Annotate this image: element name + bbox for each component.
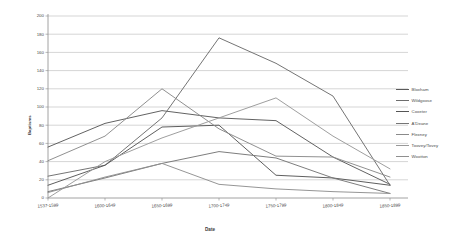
y-axis-tick-label: 180 (18, 32, 44, 37)
legend-color-swatch (396, 134, 409, 135)
legend-item[interactable]: A'Deane (396, 118, 474, 129)
series-line-bloxham (48, 111, 390, 185)
chart-legend: BloxhamWildgooseCoxeterA'DeaneFlexneyToo… (396, 84, 474, 162)
legend-item[interactable]: Wootton (396, 151, 474, 162)
legend-label: Flexney (412, 132, 427, 137)
legend-color-swatch (396, 111, 409, 112)
y-axis-tick-label: 80 (18, 123, 44, 128)
legend-item[interactable]: Toovey/Tovey (396, 140, 474, 151)
y-axis-tick-label: 20 (18, 177, 44, 182)
series-line-flexney (48, 89, 390, 177)
series-line-wildgoose (48, 38, 390, 185)
y-axis-tick-label: 0 (18, 195, 44, 200)
y-axis-tick-label: 160 (18, 50, 44, 55)
y-axis-tick-label: 100 (18, 104, 44, 109)
legend-label: Coxeter (412, 109, 427, 114)
y-axis-tick-label: 60 (18, 141, 44, 146)
y-axis-tick-label: 200 (18, 13, 44, 18)
y-axis-tick-label: 140 (18, 68, 44, 73)
legend-color-swatch (396, 100, 409, 101)
y-axis-tick-label: 120 (18, 86, 44, 91)
legend-item[interactable]: Flexney (396, 129, 474, 140)
legend-label: Bloxham (412, 87, 429, 92)
legend-item[interactable]: Coxeter (396, 106, 474, 117)
legend-color-swatch (396, 156, 409, 157)
legend-item[interactable]: Bloxham (396, 84, 474, 95)
x-axis-title: Date (170, 227, 250, 232)
legend-label: Wildgoose (412, 98, 433, 103)
legend-color-swatch (396, 123, 409, 124)
legend-color-swatch (396, 145, 409, 146)
line-chart: Baptisms 020406080100120140160180200 153… (0, 0, 475, 242)
series-line-coxeter (48, 125, 390, 185)
series-line-a-deane (48, 152, 390, 194)
legend-label: Wootton (412, 154, 428, 159)
legend-color-swatch (396, 89, 409, 90)
y-axis-tick-label: 40 (18, 159, 44, 164)
legend-label: Toovey/Tovey (412, 143, 439, 148)
series-line-toovey-tovey (48, 98, 390, 198)
legend-label: A'Deane (412, 121, 429, 126)
legend-item[interactable]: Wildgoose (396, 95, 474, 106)
